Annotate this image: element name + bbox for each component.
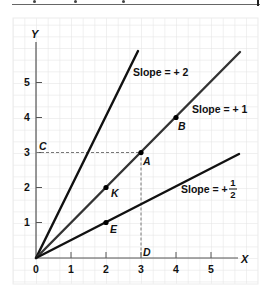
x-tick-label: 2	[103, 263, 109, 275]
point-a-label: A	[142, 155, 151, 167]
x-tick-label: 1	[68, 263, 74, 275]
point-d-label: D	[143, 246, 151, 258]
svg-text:Slope = +: Slope = +	[181, 183, 228, 195]
slope-diagram: Y X 1 2 3 4 5 0 1 2 3 4 5 A B K E C D Sl…	[0, 0, 274, 297]
y-tick-label: 5	[24, 76, 30, 88]
slope-2-label: Slope = + 2	[133, 66, 189, 78]
slope-1-label: Slope = + 1	[192, 103, 248, 115]
point-k-marker	[103, 185, 108, 190]
point-b-label: B	[178, 120, 186, 132]
point-c-label: C	[39, 140, 47, 152]
y-tick-label: 1	[24, 216, 30, 228]
fraction-denominator: 2	[230, 189, 235, 200]
x-tick-label: 4	[173, 263, 179, 275]
x-axis-label: X	[240, 253, 249, 265]
fraction-numerator: 1	[230, 177, 236, 188]
y-tick-label: 4	[24, 111, 30, 123]
y-tick-label: 3	[24, 146, 30, 158]
point-e-marker	[103, 220, 108, 225]
x-tick-label: 3	[138, 263, 144, 275]
point-e-label: E	[110, 223, 118, 235]
x-tick-label: 5	[208, 263, 214, 275]
y-tick-label: 2	[24, 181, 30, 193]
x-tick-label: 0	[33, 263, 39, 275]
